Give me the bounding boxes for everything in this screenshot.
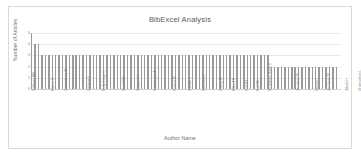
bar (274, 67, 275, 89)
bar (110, 55, 111, 89)
chart-container: BibExcel Analysis Number of Articles 012… (8, 6, 352, 149)
y-axis-tick-labels: 012345 (21, 33, 30, 89)
x-axis-tick: Mohan D (50, 90, 63, 134)
y-axis-tick: 2 (28, 64, 30, 68)
x-axis-tick: Jacobsen M (326, 90, 344, 134)
bar (291, 67, 292, 89)
x-axis-tick-label: Nil Jeynsin Robb D (269, 63, 272, 91)
x-axis-tick-label: Jacobsen PL (297, 72, 300, 91)
x-axis-title: Author Name (9, 135, 351, 141)
x-axis-tick: Pell MJ (244, 90, 255, 134)
bar (185, 55, 186, 89)
bar (164, 55, 165, 89)
bar (312, 67, 313, 89)
x-axis-tick-label: Jakobi H (346, 78, 349, 91)
chart-title: BibExcel Analysis (9, 15, 351, 24)
x-axis-tick-label: Miller TR (233, 78, 236, 91)
x-axis-tick-label: McAndrews C (103, 70, 106, 91)
bar (127, 55, 128, 89)
y-axis-title: Number of Articles (12, 12, 18, 68)
x-axis-tick-label: Mohan D (52, 78, 55, 91)
x-axis-tick: McAndrews C (101, 90, 122, 134)
bar (336, 67, 337, 89)
bar (260, 55, 261, 89)
x-axis-tick: Hoang M (218, 90, 231, 134)
bar (147, 55, 148, 89)
x-axis-tick-label: Ball ME (257, 80, 260, 91)
bar (182, 55, 183, 89)
x-axis-tick-label: Dantlen L (189, 77, 192, 91)
x-axis-tick: Probert M (172, 90, 186, 134)
x-axis-tick-label: Medonez D (203, 74, 206, 91)
bar (322, 67, 323, 89)
y-axis-tick: 4 (28, 42, 30, 46)
bar (250, 55, 251, 89)
x-axis-tick: Shafti RA (121, 90, 135, 134)
x-axis-tick-label: Shafti RA (123, 77, 126, 91)
x-axis-tick: Organization L (357, 90, 361, 134)
x-axis-tick: Nil Jeynsin Robb D (267, 90, 295, 134)
bar (106, 55, 107, 89)
x-axis-tick: Ball ME (255, 90, 266, 134)
bar (38, 44, 39, 89)
bar (45, 55, 46, 89)
bar (134, 55, 135, 89)
bar (209, 55, 210, 89)
bar-series (31, 33, 341, 89)
y-axis-tick: 3 (28, 53, 30, 57)
y-axis-tick: 1 (28, 76, 30, 80)
bar (226, 55, 227, 89)
x-axis-tick: Sargoons L (135, 90, 152, 134)
bar (195, 55, 196, 89)
bar (144, 55, 145, 89)
bar (253, 55, 254, 89)
bar (236, 55, 237, 89)
bar (82, 55, 83, 89)
x-axis-tick: Gilchrist J (86, 90, 100, 134)
bar (99, 55, 100, 89)
bar (216, 55, 217, 89)
x-axis-tick: Jacobsen PL (295, 90, 314, 134)
x-axis-tick-label: Iversen I (316, 78, 319, 91)
bar (178, 55, 179, 89)
x-axis-tick: Jakobi H (344, 90, 357, 134)
x-axis-tick-label: Pell MJ (246, 80, 249, 91)
x-axis-tick: Iversen I (314, 90, 327, 134)
x-axis-tick-label: Dellinger AM (33, 72, 36, 91)
bar (212, 55, 213, 89)
bar (151, 55, 152, 89)
bar (130, 55, 131, 89)
x-axis-tick-labels: Dellinger AMMohan DDannenberg ALGilchris… (31, 90, 341, 134)
plot-area (31, 33, 341, 89)
bar (332, 67, 333, 89)
bar (240, 55, 241, 89)
x-axis-tick-label: Hadiyangha A (154, 70, 157, 91)
bar (161, 55, 162, 89)
y-axis-tick: 5 (28, 31, 30, 35)
bar (41, 55, 42, 89)
x-axis-tick-label: Sargoons L (137, 74, 140, 91)
bar (308, 67, 309, 89)
bar (75, 55, 76, 89)
bar (305, 67, 306, 89)
bar (117, 55, 118, 89)
bar (199, 55, 200, 89)
x-axis-tick-label: Gilchrist J (88, 77, 91, 91)
x-axis-tick-label: Probert M (174, 77, 177, 91)
x-axis-tick: Dannenberg AL (63, 90, 86, 134)
y-axis-tick: 0 (28, 87, 30, 91)
bar (301, 67, 302, 89)
bar (113, 55, 114, 89)
x-axis-tick: Dantlen L (187, 90, 201, 134)
x-axis-tick: Hadiyangha A (152, 90, 173, 134)
x-axis-tick-label: Hoang M (220, 78, 223, 91)
x-axis-tick: Medonez D (201, 90, 218, 134)
bar (48, 55, 49, 89)
x-axis-tick-label: Jacobsen M (328, 73, 331, 91)
bar (69, 55, 70, 89)
bar (168, 55, 169, 89)
bar (72, 55, 73, 89)
bar (277, 67, 278, 89)
bar (281, 67, 282, 89)
bar (264, 55, 265, 89)
